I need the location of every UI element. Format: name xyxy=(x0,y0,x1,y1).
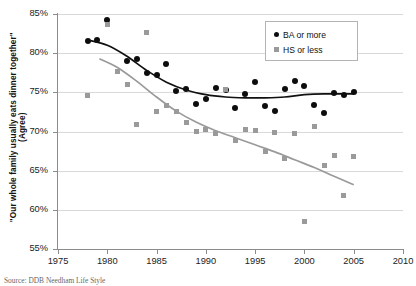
data-point-hs-or-less xyxy=(134,122,139,127)
legend-label-hs-or-less: HS or less xyxy=(283,45,323,55)
y-axis-tick-label: 75% xyxy=(8,86,48,96)
x-axis-tick xyxy=(255,249,256,254)
chart-legend: BA or more HS or less xyxy=(265,21,358,61)
x-axis-tick-label: 2010 xyxy=(381,256,416,266)
x-axis-line xyxy=(57,249,404,250)
x-axis-tick xyxy=(403,249,404,254)
data-point-hs-or-less xyxy=(223,87,228,92)
source-note: Source: DDB Needham Life Style xyxy=(4,276,105,285)
gridline-y xyxy=(58,14,403,15)
data-point-hs-or-less xyxy=(125,82,130,87)
data-point-hs-or-less xyxy=(233,138,238,143)
data-point-hs-or-less xyxy=(302,219,307,224)
data-point-ba-or-more xyxy=(341,92,347,98)
x-axis-tick-label: 1975 xyxy=(36,256,80,266)
y-axis-tick-label: 85% xyxy=(8,8,48,18)
legend-entry-ba-or-more: BA or more xyxy=(274,29,326,40)
data-point-hs-or-less xyxy=(272,130,277,135)
x-axis-tick-label: 1985 xyxy=(135,256,179,266)
x-axis-tick xyxy=(354,249,355,254)
data-point-ba-or-more xyxy=(292,78,298,84)
data-point-hs-or-less xyxy=(263,149,268,154)
data-point-hs-or-less xyxy=(203,127,208,132)
y-axis-tick xyxy=(53,171,58,172)
data-point-ba-or-more xyxy=(154,72,160,78)
x-axis-tick-label: 2000 xyxy=(282,256,326,266)
chart-figure: "Our whole family usually eats dinner to… xyxy=(0,0,416,286)
legend-marker-square-icon xyxy=(274,47,279,52)
x-axis-tick xyxy=(157,249,158,254)
data-point-ba-or-more xyxy=(321,110,327,116)
y-axis-tick-label: 65% xyxy=(8,165,48,175)
y-axis-tick-label: 55% xyxy=(8,243,48,253)
data-point-ba-or-more xyxy=(262,103,268,109)
data-point-hs-or-less xyxy=(85,93,90,98)
y-axis-tick xyxy=(53,210,58,211)
gridline-y xyxy=(58,132,403,133)
x-axis-tick xyxy=(58,249,59,254)
legend-entry-hs-or-less: HS or less xyxy=(274,44,323,55)
data-point-hs-or-less xyxy=(144,30,149,35)
gridline-y xyxy=(58,171,403,172)
y-axis-tick xyxy=(53,132,58,133)
gridline-y xyxy=(58,210,403,211)
data-point-ba-or-more xyxy=(272,108,278,114)
x-axis-tick-label: 1990 xyxy=(184,256,228,266)
data-point-hs-or-less xyxy=(194,129,199,134)
y-axis-tick-label: 80% xyxy=(8,47,48,57)
x-axis-tick xyxy=(107,249,108,254)
data-point-hs-or-less xyxy=(312,124,317,129)
data-point-hs-or-less xyxy=(164,103,169,108)
y-axis-tick xyxy=(53,53,58,54)
y-axis-tick xyxy=(53,92,58,93)
data-point-ba-or-more xyxy=(351,89,357,95)
data-point-hs-or-less xyxy=(292,131,297,136)
x-axis-tick xyxy=(304,249,305,254)
legend-label-ba-or-more: BA or more xyxy=(283,30,326,40)
data-point-hs-or-less xyxy=(322,163,327,168)
data-point-hs-or-less xyxy=(253,128,258,133)
y-axis-tick xyxy=(53,14,58,15)
legend-marker-circle-icon xyxy=(274,32,279,37)
data-point-ba-or-more xyxy=(85,38,91,44)
data-point-hs-or-less xyxy=(213,131,218,136)
data-point-hs-or-less xyxy=(243,127,248,132)
data-point-hs-or-less xyxy=(282,156,287,161)
data-point-ba-or-more xyxy=(124,58,130,64)
data-point-hs-or-less xyxy=(154,109,159,114)
x-axis-tick-label: 1980 xyxy=(85,256,129,266)
data-point-hs-or-less xyxy=(332,153,337,158)
data-point-ba-or-more xyxy=(144,70,150,76)
x-axis-tick xyxy=(206,249,207,254)
data-point-hs-or-less xyxy=(184,120,189,125)
data-point-hs-or-less xyxy=(174,109,179,114)
data-point-hs-or-less xyxy=(105,22,110,27)
y-axis-tick-label: 70% xyxy=(8,126,48,136)
data-point-ba-or-more xyxy=(282,86,288,92)
y-axis-tick-label: 60% xyxy=(8,204,48,214)
data-point-hs-or-less xyxy=(341,193,346,198)
data-point-hs-or-less xyxy=(115,69,120,74)
x-axis-tick-label: 1995 xyxy=(233,256,277,266)
data-point-hs-or-less xyxy=(351,154,356,159)
x-axis-tick-label: 2005 xyxy=(332,256,376,266)
